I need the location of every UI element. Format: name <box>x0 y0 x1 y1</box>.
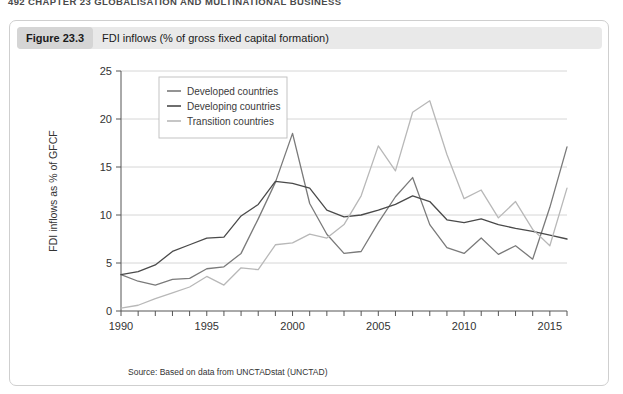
legend-label-0[interactable]: Developed countries <box>187 86 278 97</box>
y-tick-label: 0 <box>106 305 112 317</box>
x-axis-ticks: 199019952000200520102015 <box>109 311 567 332</box>
figure-panel: Figure 23.3 FDI inflows (% of gross fixe… <box>9 20 609 386</box>
running-head: 492 CHAPTER 23 GLOBALISATION AND MULTINA… <box>0 0 623 11</box>
x-tick-label: 2000 <box>280 320 304 332</box>
x-tick-label: 2010 <box>452 320 476 332</box>
series-line-developing-countries <box>121 181 567 274</box>
fdi-inflows-line-chart: 0510152025 199019952000200520102015 FDI … <box>17 53 602 353</box>
legend-label-1[interactable]: Developing countries <box>187 101 280 112</box>
figure-header-bar: Figure 23.3 FDI inflows (% of gross fixe… <box>17 27 602 49</box>
figure-number-chip: Figure 23.3 <box>17 27 93 49</box>
y-tick-label: 20 <box>100 113 112 125</box>
y-tick-label: 15 <box>100 161 112 173</box>
y-axis-title: FDI inflows as % of GFCF <box>47 130 59 251</box>
figure-source-note: Source: Based on data from UNCTADstat (U… <box>128 367 328 377</box>
chart-legend[interactable]: Developed countriesDeveloping countriesT… <box>159 77 287 138</box>
series-line-developed-countries <box>121 133 567 285</box>
x-tick-label: 2015 <box>538 320 562 332</box>
y-tick-label: 25 <box>100 65 112 77</box>
figure-title: FDI inflows (% of gross fixed capital fo… <box>102 27 329 49</box>
legend-label-2[interactable]: Transition countries <box>187 116 274 127</box>
y-tick-label: 5 <box>106 257 112 269</box>
running-head-text: 492 CHAPTER 23 GLOBALISATION AND MULTINA… <box>8 0 341 7</box>
x-tick-label: 1990 <box>109 320 133 332</box>
chart-plot-area: 0510152025 199019952000200520102015 FDI … <box>17 53 602 353</box>
y-axis-ticks: 0510152025 <box>100 65 121 317</box>
x-tick-label: 1995 <box>195 320 219 332</box>
x-tick-label: 2005 <box>366 320 390 332</box>
y-tick-label: 10 <box>100 209 112 221</box>
